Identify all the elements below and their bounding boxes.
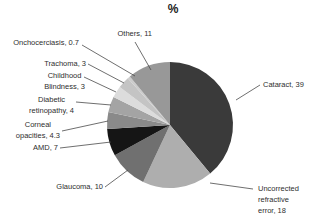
leader-line-childhood xyxy=(84,77,116,92)
label-uncorrected-refractive-error: Uncorrected refractive error, 18 xyxy=(258,183,299,216)
label-cataract: Cataract, 39 xyxy=(263,79,304,90)
label-childhood-blindness: Childhood Blindness, 3 xyxy=(44,70,85,92)
pie-slices xyxy=(107,62,233,188)
label-trachoma: Trachoma, 3 xyxy=(44,58,86,69)
label-others: Others, 11 xyxy=(118,28,152,39)
label-corneal-opacities: Corneal opacities, 4.3 xyxy=(16,119,60,141)
leader-line-diabetic xyxy=(76,102,111,105)
leader-line-cataract xyxy=(236,85,260,100)
leader-line-glaucoma xyxy=(105,170,128,187)
label-amd: AMD, 7 xyxy=(33,142,58,153)
label-onchocerciasis: Onchocerciasis, 0.7 xyxy=(13,37,79,48)
leader-line-amd xyxy=(60,142,111,148)
pie-chart: % Cataract, 39 Uncorrected refractive er… xyxy=(0,0,321,223)
leader-line-uncorrected xyxy=(210,183,253,189)
label-diabetic-retinopathy: Diabetic retinopathy, 4 xyxy=(29,94,74,116)
leader-line-others xyxy=(135,42,151,70)
leader-line-onchocerciasis xyxy=(82,45,135,76)
label-glaucoma: Glaucoma, 10 xyxy=(56,181,103,192)
leader-line-corneal xyxy=(62,121,108,131)
